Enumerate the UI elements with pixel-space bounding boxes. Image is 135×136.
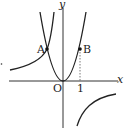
point-b-label: B [83,43,91,56]
y-axis-label: y [58,0,66,11]
x-tick-label: 1 [77,82,84,95]
hyperbola-left-branch [10,12,54,70]
x-axis-label: x [117,73,124,86]
hyperbola-right-branch [77,94,116,126]
point-a-label: A [36,43,46,56]
function-graph: A B O 1 x y [0,0,135,136]
stray-dot [1,63,3,65]
point-b-marker [78,47,82,51]
origin-label: O [53,82,62,95]
point-a-marker [45,47,49,51]
